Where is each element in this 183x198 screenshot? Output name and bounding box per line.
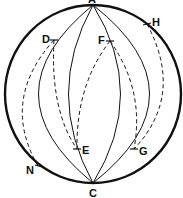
label-f: F (98, 34, 105, 46)
label-d: D (42, 33, 50, 45)
label-a: A (88, 0, 96, 5)
meridian-3 (93, 5, 121, 183)
dashed-path-d-n (22, 40, 54, 166)
outer-circle (5, 5, 181, 183)
label-n: N (26, 164, 34, 176)
meridian-1 (39, 5, 94, 183)
sphere-diagram: A D F H E G N C (0, 0, 183, 198)
label-c: C (89, 187, 97, 198)
label-h: H (152, 16, 160, 28)
dashed-path-f-e (77, 41, 110, 149)
dashed-path-f-g (110, 41, 137, 149)
meridian-2 (69, 5, 94, 183)
label-g: G (139, 145, 148, 157)
label-e: E (82, 144, 89, 156)
